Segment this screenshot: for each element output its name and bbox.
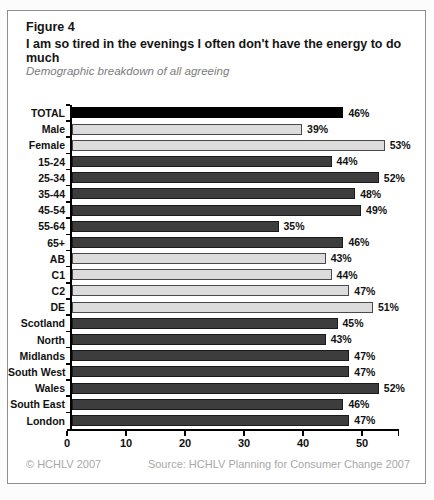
- bar: [72, 107, 343, 118]
- bar: [72, 415, 349, 426]
- category-label: 15-24: [8, 154, 70, 170]
- category-label: Male: [8, 121, 70, 137]
- bar: [72, 334, 326, 345]
- x-axis: 01020304050: [67, 429, 399, 431]
- chart-row: Scotland45%: [8, 315, 399, 331]
- bar-value-label: 43%: [331, 252, 352, 264]
- bar-value-label: 47%: [354, 366, 375, 378]
- chart-row: London47%: [8, 413, 399, 429]
- bar-area: 46%: [70, 235, 399, 251]
- chart-row: 65+46%: [8, 235, 399, 251]
- bar-value-label: 53%: [390, 139, 411, 151]
- category-label: 55-64: [8, 218, 70, 234]
- x-axis-tick: [66, 431, 68, 436]
- bar-area: 49%: [70, 202, 399, 218]
- bar: [72, 350, 349, 361]
- chart-row: Female53%: [8, 137, 399, 153]
- bar-value-label: 52%: [384, 172, 405, 184]
- bar: [72, 237, 343, 248]
- x-axis-tick: [302, 431, 304, 436]
- bar-value-label: 39%: [307, 123, 328, 135]
- bar-value-label: 46%: [348, 236, 369, 248]
- bar: [72, 221, 279, 232]
- x-axis-tick: [243, 431, 245, 436]
- chart-row: DE51%: [8, 299, 399, 315]
- category-label: South West: [8, 364, 70, 380]
- bar: [72, 302, 373, 313]
- bar-value-label: 47%: [354, 350, 375, 362]
- category-label: C1: [8, 267, 70, 283]
- bar-value-label: 46%: [348, 398, 369, 410]
- x-axis-tick: [361, 431, 363, 436]
- bar-area: 46%: [70, 105, 399, 121]
- chart-title: I am so tired in the evenings I often do…: [26, 37, 413, 65]
- bar-value-label: 43%: [331, 333, 352, 345]
- x-axis-tick-label: 10: [111, 437, 141, 449]
- category-label: AB: [8, 251, 70, 267]
- chart-row: 35-4448%: [8, 186, 399, 202]
- bar-value-label: 45%: [343, 317, 364, 329]
- bar: [72, 140, 385, 151]
- bar-area: 48%: [70, 186, 399, 202]
- chart-row: 25-3452%: [8, 170, 399, 186]
- bar: [72, 399, 343, 410]
- bar: [72, 383, 379, 394]
- x-axis-tick-label: 50: [347, 437, 377, 449]
- category-label: 65+: [8, 235, 70, 251]
- bar: [72, 318, 338, 329]
- bar-value-label: 44%: [337, 269, 358, 281]
- chart-row: North43%: [8, 332, 399, 348]
- category-label: 45-54: [8, 202, 70, 218]
- bar-area: 45%: [70, 315, 399, 331]
- bar-area: 47%: [70, 364, 399, 380]
- category-label: DE: [8, 299, 70, 315]
- chart-row: 55-6435%: [8, 218, 399, 234]
- x-axis-end-tick: [398, 431, 400, 436]
- chart-row: Male39%: [8, 121, 399, 137]
- category-label: 35-44: [8, 186, 70, 202]
- bar-area: 46%: [70, 396, 399, 412]
- bar-area: 53%: [70, 137, 399, 153]
- bar: [72, 285, 349, 296]
- bar-value-label: 51%: [378, 301, 399, 313]
- bar-area: 43%: [70, 251, 399, 267]
- bar-area: 44%: [70, 154, 399, 170]
- bar-value-label: 48%: [360, 188, 381, 200]
- bar-value-label: 46%: [348, 107, 369, 119]
- category-label: Female: [8, 137, 70, 153]
- x-axis-tick: [125, 431, 127, 436]
- bar: [72, 366, 349, 377]
- bar-value-label: 52%: [384, 382, 405, 394]
- bar-area: 52%: [70, 380, 399, 396]
- category-label: North: [8, 332, 70, 348]
- copyright-text: © HCHLV 2007: [26, 458, 101, 470]
- source-text: Source: HCHLV Planning for Consumer Chan…: [148, 458, 410, 470]
- chart-row: Wales52%: [8, 380, 399, 396]
- bar-area: 39%: [70, 121, 399, 137]
- chart-row: C144%: [8, 267, 399, 283]
- chart-row: 15-2444%: [8, 154, 399, 170]
- x-axis-tick-label: 40: [288, 437, 318, 449]
- x-axis-tick: [184, 431, 186, 436]
- bar-area: 47%: [70, 413, 399, 429]
- figure-frame: Figure 4 I am so tired in the evenings I…: [7, 10, 426, 484]
- chart-row: TOTAL46%: [8, 105, 399, 121]
- bar-value-label: 47%: [354, 285, 375, 297]
- bar: [72, 172, 379, 183]
- bar-area: 51%: [70, 299, 399, 315]
- x-axis-tick-label: 0: [52, 437, 82, 449]
- chart-row: South West47%: [8, 364, 399, 380]
- bar: [72, 156, 332, 167]
- bar: [72, 188, 355, 199]
- chart-row: Midlands47%: [8, 348, 399, 364]
- category-label: South East: [8, 396, 70, 412]
- chart-row: C247%: [8, 283, 399, 299]
- bar-value-label: 35%: [284, 220, 305, 232]
- bar-area: 35%: [70, 218, 399, 234]
- x-axis-tick-label: 20: [170, 437, 200, 449]
- chart-row: AB43%: [8, 251, 399, 267]
- category-label: Scotland: [8, 315, 70, 331]
- bar: [72, 253, 326, 264]
- chart-row: South East46%: [8, 396, 399, 412]
- category-label: London: [8, 413, 70, 429]
